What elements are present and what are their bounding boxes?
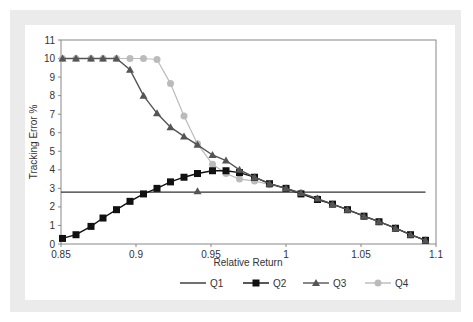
y-tick-label: 9 [49, 72, 55, 83]
circle-marker [167, 80, 174, 87]
square-marker [88, 223, 95, 230]
legend: Q1Q2Q3Q4 [180, 278, 409, 289]
circle-marker [140, 55, 147, 62]
square-marker [127, 198, 134, 205]
square-marker [167, 178, 174, 185]
y-tick-label: 11 [45, 35, 56, 46]
y-tick-label: 6 [49, 127, 55, 138]
line-chart: 01234567891011 0.850.90.9511.051.1 Relat… [0, 0, 473, 322]
x-tick-label: 0.85 [51, 249, 71, 260]
y-tick-label: 4 [49, 164, 55, 175]
circle-marker [209, 161, 216, 168]
legend-label: Q2 [273, 278, 287, 289]
square-marker [194, 170, 201, 177]
y-axis-title: Tracking Error % [28, 105, 39, 180]
y-tick-label: 1 [49, 220, 55, 231]
x-tick-label: 1 [283, 249, 289, 260]
square-marker [100, 215, 107, 222]
square-marker [181, 174, 188, 181]
legend-item-q2: Q2 [243, 278, 287, 289]
square-marker [154, 185, 161, 192]
circle-marker [236, 176, 243, 183]
y-tick-label: 0 [49, 239, 55, 250]
square-marker [209, 167, 216, 174]
square-marker [113, 206, 120, 213]
y-tick-label: 3 [49, 183, 55, 194]
legend-label: Q4 [395, 278, 409, 289]
circle-marker [154, 56, 161, 63]
y-tick-label: 2 [49, 201, 55, 212]
legend-label: Q3 [333, 278, 347, 289]
legend-item-q4: Q4 [365, 278, 409, 289]
circle-marker [127, 55, 134, 62]
y-tick-label: 10 [44, 53, 56, 64]
y-tick-label: 5 [49, 146, 55, 157]
x-tick-label: 0.9 [129, 249, 143, 260]
y-tick-label: 8 [49, 90, 55, 101]
circle-marker [181, 113, 188, 120]
legend-item-q1: Q1 [180, 278, 224, 289]
x-tick-label: 1.05 [351, 249, 371, 260]
plot-border [61, 40, 436, 244]
legend-label: Q1 [210, 278, 224, 289]
square-marker [253, 280, 260, 287]
x-axis-title: Relative Return [214, 257, 283, 268]
square-marker [140, 190, 147, 197]
square-marker [223, 167, 230, 174]
square-marker [73, 231, 80, 238]
plot-area [61, 40, 436, 244]
y-axis: 01234567891011 [44, 35, 61, 250]
legend-item-q3: Q3 [303, 278, 347, 289]
circle-marker [375, 280, 382, 287]
x-tick-label: 1.1 [429, 249, 443, 260]
square-marker [59, 235, 66, 242]
y-tick-label: 7 [49, 109, 55, 120]
